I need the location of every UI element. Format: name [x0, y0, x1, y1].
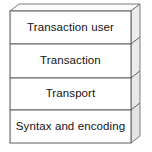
layer-label-4: Syntax and encoding — [16, 121, 125, 133]
layer-row-transaction-user: Transaction user — [10, 11, 131, 44]
layer-row-transport: Transport — [10, 78, 131, 110]
layer-label-list: Transaction user Transaction Transport S… — [10, 11, 131, 144]
layer-stack-diagram: Transaction user Transaction Transport S… — [0, 0, 152, 152]
layer-label-2: Transaction — [40, 55, 101, 67]
layer-row-syntax-and-encoding: Syntax and encoding — [10, 110, 131, 144]
side-panel-layer-4 — [131, 103, 140, 143]
stack-top-face — [10, 4, 140, 11]
layer-label-1: Transaction user — [27, 22, 114, 34]
layer-row-transaction: Transaction — [10, 44, 131, 78]
layer-label-3: Transport — [46, 88, 96, 100]
